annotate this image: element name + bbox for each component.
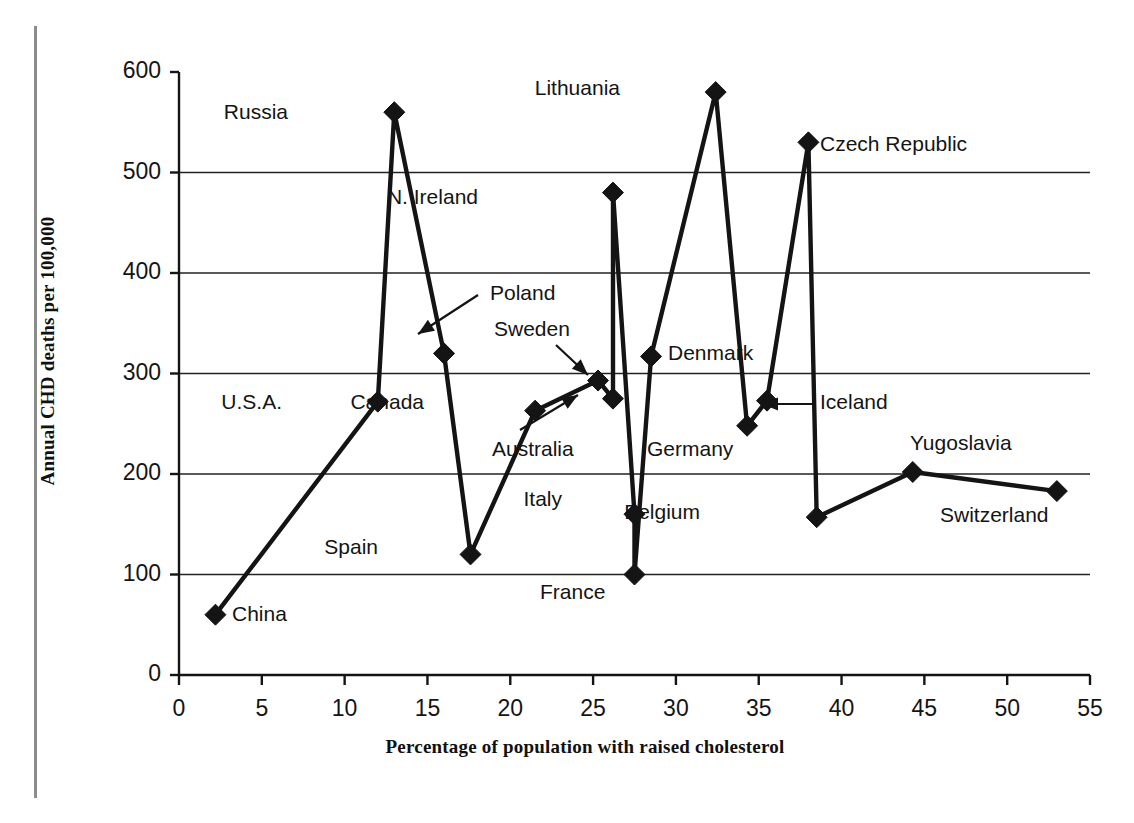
- x-tick-label: 25: [573, 695, 613, 722]
- y-tick-label: 200: [99, 459, 161, 486]
- point-label-france: France: [540, 580, 605, 604]
- y-tick-label: 0: [99, 660, 161, 687]
- point-label-germany: Germany: [647, 437, 733, 461]
- chart-page: Annual CHD deaths per 100,000 Percentage…: [0, 0, 1134, 823]
- point-label-denmark: Denmark: [668, 341, 753, 365]
- x-tick-label: 10: [325, 695, 365, 722]
- x-tick-label: 55: [1070, 695, 1110, 722]
- x-axis-title: Percentage of population with raised cho…: [170, 736, 1000, 758]
- y-tick-label: 300: [99, 359, 161, 386]
- x-tick-label: 0: [159, 695, 199, 722]
- y-tick-label: 100: [99, 560, 161, 587]
- point-label-australia: Australia: [492, 437, 574, 461]
- point-label-n-ireland: N. Ireland: [387, 185, 478, 209]
- x-tick-label: 20: [490, 695, 530, 722]
- point-label-sweden: Sweden: [494, 317, 570, 341]
- x-tick-label: 15: [407, 695, 447, 722]
- point-label-lithuania: Lithuania: [535, 76, 620, 100]
- point-label-spain: Spain: [324, 535, 378, 559]
- x-tick-label: 35: [739, 695, 779, 722]
- x-tick-label: 30: [656, 695, 696, 722]
- point-label-china: China: [232, 602, 287, 626]
- point-label-italy: Italy: [523, 487, 562, 511]
- x-tick-label: 40: [822, 695, 862, 722]
- x-tick-label: 50: [987, 695, 1027, 722]
- point-label-belgium: Belgium: [624, 500, 700, 524]
- x-tick-label: 45: [904, 695, 944, 722]
- point-label-czech-republic: Czech Republic: [820, 132, 967, 156]
- x-tick-label: 5: [242, 695, 282, 722]
- point-label-canada: Canada: [350, 390, 424, 414]
- y-axis-title: Annual CHD deaths per 100,000: [37, 136, 59, 566]
- y-tick-label: 500: [99, 158, 161, 185]
- point-label-yugoslavia: Yugoslavia: [910, 431, 1012, 455]
- point-label-iceland: Iceland: [820, 390, 888, 414]
- point-label-poland: Poland: [490, 281, 555, 305]
- y-tick-label: 400: [99, 258, 161, 285]
- point-label-switzerland: Switzerland: [940, 503, 1049, 527]
- point-label-u-s-a: U.S.A.: [221, 390, 282, 414]
- tick-marks: [170, 72, 1090, 685]
- point-label-russia: Russia: [224, 100, 288, 124]
- y-tick-label: 600: [99, 57, 161, 84]
